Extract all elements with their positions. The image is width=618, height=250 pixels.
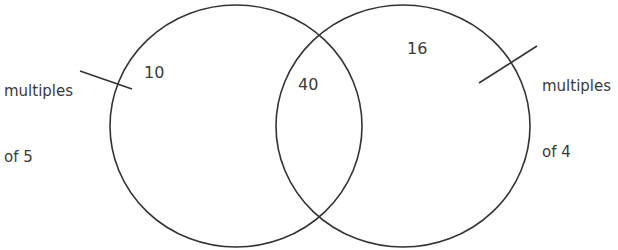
set-circle-multiples-of-4 xyxy=(276,5,530,247)
right-only-value: 16 xyxy=(407,39,427,58)
set-label-right: multiples of 4 xyxy=(542,31,611,185)
set-label-left-line2: of 5 xyxy=(4,146,73,168)
set-label-right-line1: multiples xyxy=(542,75,611,97)
venn-diagram xyxy=(0,0,618,250)
set-circle-multiples-of-5 xyxy=(110,5,362,247)
pointer-line-right xyxy=(479,46,537,83)
set-label-right-line2: of 4 xyxy=(542,141,611,163)
set-label-left-line1: multiples xyxy=(4,80,73,102)
left-only-value: 10 xyxy=(144,63,164,82)
set-label-left: multiples of 5 xyxy=(4,36,73,190)
pointer-line-left xyxy=(80,71,132,89)
intersection-value: 40 xyxy=(298,75,318,94)
